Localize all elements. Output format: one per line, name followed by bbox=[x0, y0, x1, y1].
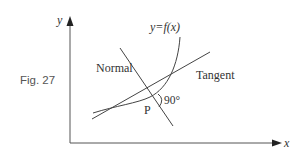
normal-label: Normal bbox=[96, 61, 133, 75]
y-axis bbox=[67, 16, 74, 143]
x-axis-label: x bbox=[283, 136, 290, 150]
diagram-canvas: y x Fig. 27 y=f(x) Tangent Normal 90° P bbox=[0, 0, 297, 164]
point-p-label: P bbox=[144, 103, 151, 117]
tangent-label: Tangent bbox=[196, 68, 235, 82]
figure-caption: Fig. 27 bbox=[20, 74, 55, 86]
x-axis bbox=[70, 140, 282, 147]
y-axis-arrow-icon bbox=[67, 16, 74, 26]
y-axis-label: y bbox=[56, 13, 63, 27]
x-axis-arrow-icon bbox=[272, 140, 282, 147]
curve-label: y=f(x) bbox=[149, 20, 180, 34]
angle-label: 90° bbox=[164, 94, 181, 106]
